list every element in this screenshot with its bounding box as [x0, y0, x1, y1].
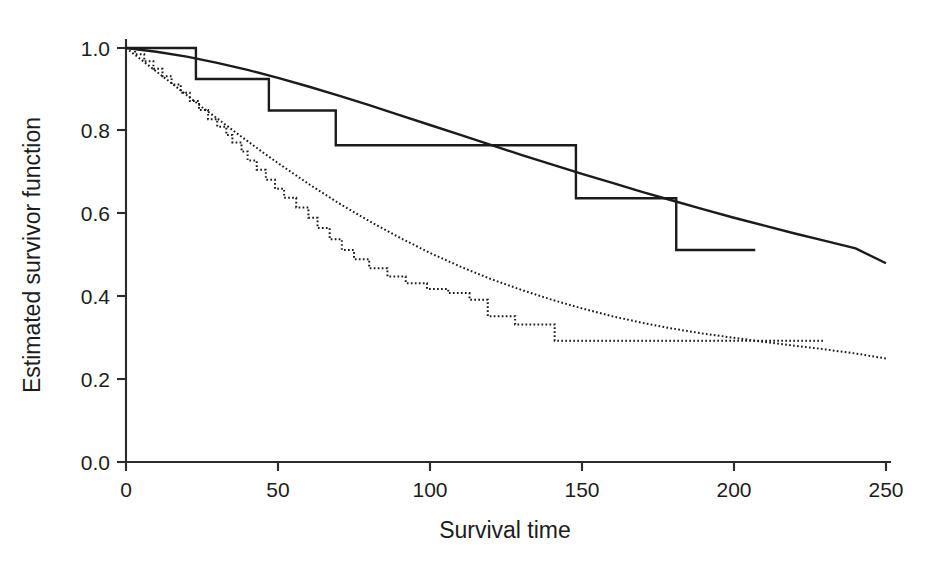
- series-group1-fitted-curve: [126, 48, 886, 263]
- series-group2-fitted-curve: [126, 48, 886, 359]
- x-tick-label-0: 0: [120, 478, 132, 501]
- y-axis-title: Estimated survivor function: [19, 117, 45, 393]
- x-tick-label-250: 250: [868, 478, 903, 501]
- y-axis-ticks: [117, 48, 126, 462]
- y-tick-label-0-6: 0.6: [81, 202, 110, 225]
- y-tick-label-0-2: 0.2: [81, 368, 110, 391]
- x-tick-label-100: 100: [412, 478, 447, 501]
- y-tick-label-1-0: 1.0: [81, 37, 110, 60]
- x-tick-label-200: 200: [716, 478, 751, 501]
- survival-plot-figure: 1.0 0.8 0.6 0.4 0.2 0.0 0 50 100 150 200…: [0, 0, 943, 565]
- x-tick-label-50: 50: [266, 478, 289, 501]
- y-tick-label-0-0: 0.0: [81, 451, 110, 474]
- series-group1-km-step: [126, 48, 755, 250]
- series-group2-km-step: [126, 48, 825, 341]
- x-axis-title: Survival time: [439, 517, 571, 543]
- x-tick-label-150: 150: [564, 478, 599, 501]
- y-tick-label-0-8: 0.8: [81, 119, 110, 142]
- chart-canvas: 1.0 0.8 0.6 0.4 0.2 0.0 0 50 100 150 200…: [0, 0, 943, 565]
- y-tick-label-0-4: 0.4: [81, 285, 111, 308]
- x-axis-ticks: [126, 462, 886, 471]
